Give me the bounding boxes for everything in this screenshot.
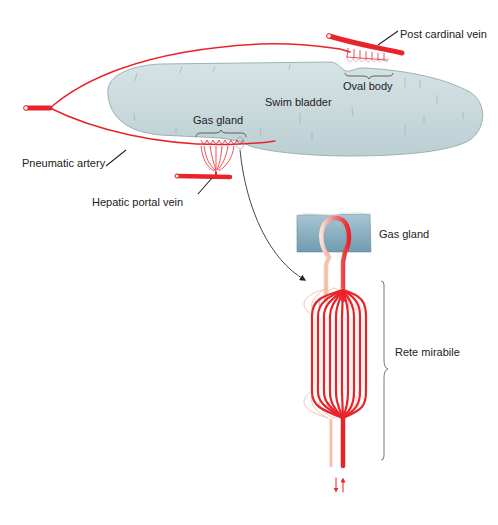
label-swim-bladder: Swim bladder bbox=[265, 96, 332, 108]
swim-bladder bbox=[108, 62, 483, 156]
label-pneumatic-artery: Pneumatic artery bbox=[22, 157, 105, 169]
detail-arrow bbox=[240, 150, 305, 280]
rete-mirabile-vessels bbox=[304, 218, 366, 492]
swim-bladder-diagram bbox=[0, 0, 498, 525]
label-gas-gland-detail: Gas gland bbox=[379, 228, 429, 240]
post-cardinal-vein bbox=[327, 34, 402, 62]
label-gas-gland-top: Gas gland bbox=[193, 114, 243, 126]
label-hepatic-portal-vein: Hepatic portal vein bbox=[92, 196, 183, 208]
label-post-cardinal-vein: Post cardinal vein bbox=[400, 28, 487, 40]
label-oval-body: Oval body bbox=[343, 80, 393, 92]
gas-gland-capillaries bbox=[201, 137, 244, 175]
label-rete-mirabile: Rete mirabile bbox=[395, 346, 460, 358]
hepatic-portal-vein bbox=[175, 172, 230, 178]
rete-mirabile-bracket bbox=[381, 281, 388, 460]
